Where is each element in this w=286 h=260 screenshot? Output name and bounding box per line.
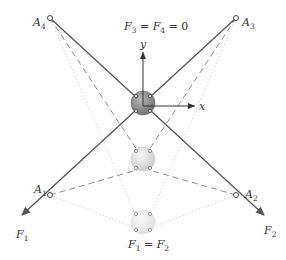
label-f2: F2 xyxy=(263,224,277,239)
label-a3: A3 xyxy=(241,16,255,31)
label-a2: A2 xyxy=(244,188,258,203)
x-axis-label: x xyxy=(199,100,206,113)
end-effector-middle xyxy=(131,147,155,171)
label-f1: F1 xyxy=(15,228,28,243)
cable-robot-diagram: y x A4 A3 A1 A2 F1 F2 F3 = F4 = 0 F1 = F… xyxy=(0,0,286,260)
equation-f1-equals-f2: F1 = F2 xyxy=(127,238,169,253)
end-effector-bottom xyxy=(131,210,155,234)
anchor-a3 xyxy=(234,16,239,21)
anchor-a1 xyxy=(48,193,53,198)
equation-f3-f4-zero: F3 = F4 = 0 xyxy=(123,20,188,35)
label-a4: A4 xyxy=(32,16,46,31)
label-a1: A1 xyxy=(33,183,47,198)
anchor-a4 xyxy=(48,16,53,21)
anchor-a2 xyxy=(234,193,239,198)
y-axis-label: y xyxy=(139,38,147,51)
